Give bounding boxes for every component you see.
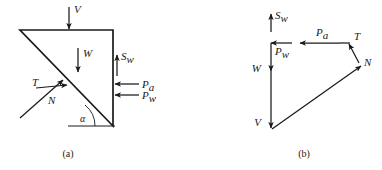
figure-root: α V W Sw Pa Pw T N (a) [0, 0, 382, 170]
force-label-sw-a: Sw [121, 50, 135, 65]
force-label-n-a: N [47, 94, 56, 106]
force-label-pw-b: Pw [274, 45, 290, 60]
alpha-angle-arc [85, 105, 95, 126]
caption-b: (b) [298, 148, 310, 160]
force-label-pw-a: Pw [141, 89, 157, 104]
force-arrow-t-b [349, 44, 359, 63]
force-arrow-n-a [20, 80, 63, 118]
panel-b: Sw Pw Pa T N W V (b) [252, 9, 372, 160]
force-label-sw-b: Sw [275, 9, 289, 24]
force-label-w-a: W [83, 47, 93, 59]
panel-a: α V W Sw Pa Pw T N (a) [20, 3, 157, 160]
force-label-w-b: W [252, 62, 262, 74]
force-label-v-a: V [74, 3, 82, 15]
force-label-v-b: V [254, 116, 262, 128]
force-label-pa-b: Pa [315, 26, 329, 41]
force-label-t-a: T [32, 76, 39, 88]
force-arrow-t-a [36, 85, 67, 88]
force-arrow-n-b [272, 66, 361, 129]
caption-a: (a) [62, 148, 73, 160]
figure-canvas: α V W Sw Pa Pw T N (a) [0, 0, 382, 170]
force-label-n-b: N [363, 56, 372, 68]
force-label-t-b: T [354, 30, 361, 42]
alpha-angle-label: α [80, 113, 86, 124]
